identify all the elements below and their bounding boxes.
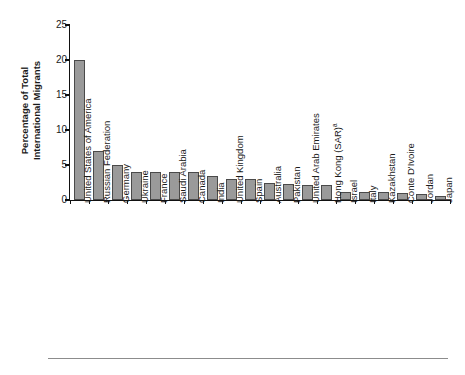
y-tick-label-15: 15 — [33, 90, 67, 100]
bar-chart: Percentage of Total International Migran… — [0, 0, 465, 375]
y-axis-title-line1: Percentage of Total — [20, 61, 32, 160]
y-tick-label-10: 10 — [33, 125, 67, 135]
x-axis-labels: United States of AmericaRussian Federati… — [70, 205, 450, 330]
y-tick-label-5: 5 — [33, 160, 67, 170]
y-tick-label-0: 0 — [33, 195, 67, 205]
y-axis-title-line2: International Migrants — [31, 61, 43, 160]
footnote-marker: a — [331, 123, 338, 127]
y-tick-label-25: 25 — [33, 20, 67, 30]
x-tick-mark — [70, 200, 71, 204]
footer-divider — [48, 358, 448, 359]
y-tick-label-20: 20 — [33, 55, 67, 65]
